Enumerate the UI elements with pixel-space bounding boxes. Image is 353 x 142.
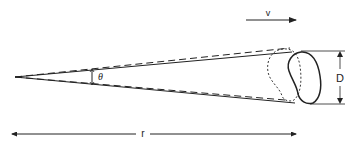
- diameter-label: D: [336, 72, 344, 84]
- sight-lines-current: [15, 52, 295, 103]
- diameter-dimension: D: [301, 51, 345, 104]
- angle-indicator: θ: [90, 69, 103, 85]
- velocity-label: v: [266, 8, 271, 18]
- distance-label: r: [141, 128, 145, 139]
- angular-size-diagram: v θ D r: [0, 0, 353, 142]
- object-current-outline: [288, 52, 321, 104]
- angle-label: θ: [98, 71, 103, 82]
- velocity-arrow: v: [246, 8, 296, 20]
- object-previous-outline: [268, 49, 301, 101]
- distance-arrow: r: [12, 128, 296, 139]
